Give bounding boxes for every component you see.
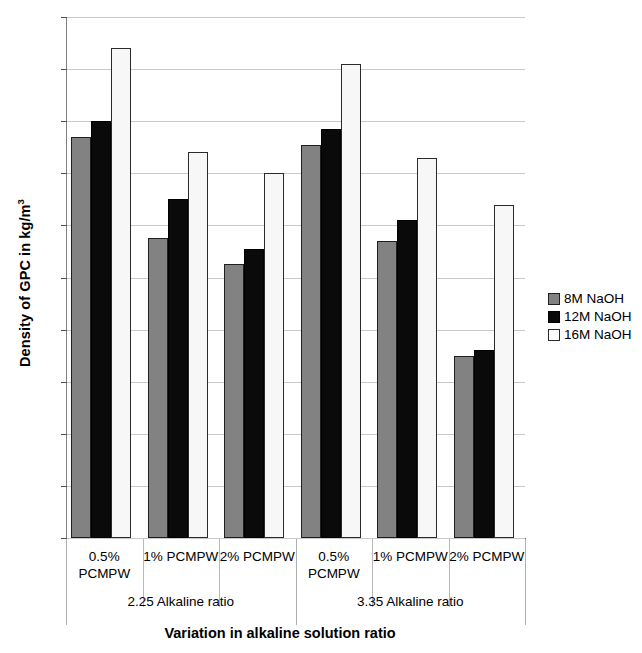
bar [377, 241, 397, 538]
bar [454, 356, 474, 538]
bar [71, 137, 91, 538]
x-axis-title: Variation in alkaline solution ratio [0, 625, 560, 641]
legend-label-12m: 12M NaOH [564, 309, 632, 324]
bar-chart: Density of GPC in kg/m3 2480246024402420… [0, 0, 642, 653]
bar [224, 264, 244, 538]
y-tick-mark [61, 173, 67, 174]
x-supergroup-label: 2.25 Alkaline ratio [66, 594, 296, 609]
y-axis-title-exponent: 3 [15, 199, 26, 204]
y-tick-mark [61, 382, 67, 383]
x-category-label: 2% PCMPW [449, 548, 526, 565]
bar [148, 238, 168, 538]
y-tick-mark [61, 225, 67, 226]
legend-item-8m[interactable]: 8M NaOH [548, 290, 632, 307]
bar [494, 205, 514, 538]
bar [341, 64, 361, 538]
y-gridline [66, 330, 525, 331]
legend-swatch-icon-8m [548, 293, 560, 305]
bar [264, 173, 284, 538]
legend-item-16m[interactable]: 16M NaOH [548, 326, 632, 343]
y-gridline [66, 278, 525, 279]
supergroup-separator [525, 539, 526, 625]
y-gridline [66, 69, 525, 70]
bar [301, 145, 321, 538]
plot-area: 2480246024402420240023802360234023202300… [66, 17, 525, 538]
x-category-label: 1% PCMPW [143, 548, 220, 565]
y-gridline [66, 121, 525, 122]
x-category-label: 2% PCMPW [219, 548, 296, 565]
x-supergroup-label: 3.35 Alkaline ratio [296, 594, 526, 609]
bar [244, 249, 264, 538]
legend-swatch-icon-12m [548, 311, 560, 323]
x-category-label: 0.5% PCMPW [296, 548, 373, 582]
y-axis-title-text: Density of GPC in kg/m [17, 204, 33, 367]
legend-swatch-icon-16m [548, 329, 560, 341]
y-tick-mark [61, 17, 67, 18]
y-tick-mark [61, 330, 67, 331]
y-gridline [66, 17, 525, 18]
bar [321, 129, 341, 538]
y-tick-mark [61, 278, 67, 279]
bar [188, 152, 208, 538]
y-axis-title: Density of GPC in kg/m3 [17, 153, 33, 413]
legend-item-12m[interactable]: 12M NaOH [548, 308, 632, 325]
legend-label-16m: 16M NaOH [564, 327, 632, 342]
x-category-label: 0.5% PCMPW [66, 548, 143, 582]
bar [91, 121, 111, 538]
bar [417, 158, 437, 538]
y-gridline [66, 225, 525, 226]
y-gridline [66, 173, 525, 174]
x-category-label: 1% PCMPW [372, 548, 449, 565]
bar [168, 199, 188, 538]
y-tick-mark [61, 486, 67, 487]
y-tick-mark [61, 69, 67, 70]
legend-label-8m: 8M NaOH [564, 291, 624, 306]
y-tick-mark [61, 434, 67, 435]
y-tick-mark [61, 121, 67, 122]
bar [111, 48, 131, 538]
bar [397, 220, 417, 538]
bar [474, 350, 494, 538]
legend: 8M NaOH 12M NaOH 16M NaOH [548, 290, 632, 344]
